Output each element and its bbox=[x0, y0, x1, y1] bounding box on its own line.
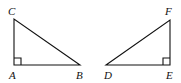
vertex-label-a: A bbox=[8, 69, 16, 81]
vertex-label-b: B bbox=[76, 69, 83, 81]
triangle-abc-outline bbox=[14, 19, 80, 65]
triangle-def-outline bbox=[106, 20, 170, 65]
triangle-def: F D E bbox=[103, 5, 173, 81]
vertex-label-e: E bbox=[165, 69, 173, 81]
right-angle-marker-e bbox=[163, 58, 170, 65]
right-angle-marker-a bbox=[14, 58, 21, 65]
triangle-abc: C A B bbox=[8, 5, 83, 81]
vertex-label-c: C bbox=[8, 5, 16, 17]
vertex-label-d: D bbox=[103, 69, 112, 81]
vertex-label-f: F bbox=[164, 5, 172, 17]
geometry-figure: C A B F D E bbox=[0, 0, 181, 83]
